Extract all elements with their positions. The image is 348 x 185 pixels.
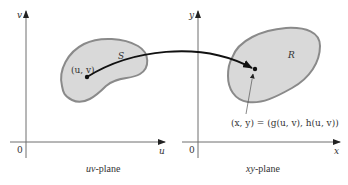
u-axis-label: u xyxy=(159,146,165,156)
y-axis-label: y xyxy=(188,10,195,20)
x-axis-label: x xyxy=(334,146,339,156)
uv-plane-caption: uv-plane xyxy=(86,163,121,174)
xy-plane: y x 0 R (x, y) = (g(u, v), h(u, v)) xy-p… xyxy=(182,10,340,174)
uv-origin-label: 0 xyxy=(17,145,23,155)
transformation-diagram: v u 0 S (u, v) uv-plane y x 0 R (x, y) =… xyxy=(0,0,348,185)
v-axis-label: v xyxy=(17,10,22,20)
xy-plane-caption: xy-plane xyxy=(245,163,280,174)
uv-plane: v u 0 S (u, v) uv-plane xyxy=(10,10,165,174)
region-r-label: R xyxy=(287,50,295,60)
xy-origin-label: 0 xyxy=(189,145,195,155)
region-r xyxy=(228,28,320,102)
point-xy xyxy=(253,67,257,71)
point-xy-label: (x, y) = (g(u, v), h(u, v)) xyxy=(231,118,339,128)
